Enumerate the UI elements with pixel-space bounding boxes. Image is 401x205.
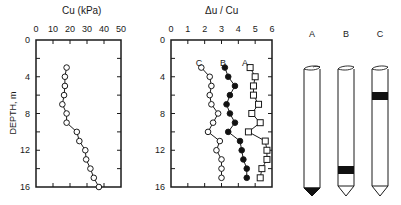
data-point	[259, 166, 265, 172]
data-point	[83, 157, 89, 163]
depth-axis-label: DEPTH, m	[8, 91, 18, 134]
pore-pressure-ratio-chart: Δu / Cu 0123456 0481216 C B A	[155, 5, 275, 192]
data-point	[62, 83, 68, 89]
figure: Cu (kPa) 01020304050 0481216 DEPTH, m Δu…	[0, 0, 401, 205]
data-point	[209, 102, 215, 108]
data-point	[88, 166, 94, 172]
data-point	[219, 157, 225, 163]
pile-b-open-tip	[338, 186, 354, 196]
series-b-label: B	[220, 58, 226, 68]
x-tick-label: 5	[253, 24, 258, 34]
data-point	[62, 74, 68, 80]
data-point	[257, 175, 263, 181]
x-tick-label: 20	[65, 24, 75, 34]
cu-depth-chart: Cu (kPa) 01020304050 0481216 DEPTH, m	[8, 5, 126, 192]
series-a-label: A	[242, 58, 248, 68]
data-point	[224, 102, 230, 108]
data-point	[232, 120, 238, 126]
data-point	[210, 120, 216, 126]
data-point	[264, 156, 270, 162]
pile-c-label: C	[377, 29, 384, 39]
chart1-frame	[36, 40, 121, 187]
data-point	[237, 138, 243, 144]
chart2-title: Δu / Cu	[205, 5, 238, 16]
data-point	[232, 83, 238, 89]
y-tick-label: 4	[25, 72, 30, 82]
pile-b-band	[338, 166, 354, 174]
data-point	[96, 184, 102, 190]
chart1-y-ticks: 0481216	[20, 35, 121, 192]
y-tick-label: 8	[25, 109, 30, 119]
y-tick-label: 12	[20, 145, 30, 155]
data-point	[250, 83, 256, 89]
pile-a-filled-tip	[304, 188, 320, 196]
data-point	[262, 138, 268, 144]
data-point	[64, 120, 70, 126]
data-point	[241, 157, 247, 163]
x-tick-label: 40	[99, 24, 109, 34]
data-point	[264, 147, 270, 153]
data-point	[244, 166, 250, 172]
data-point	[225, 129, 231, 135]
y-tick-label: 16	[155, 182, 165, 192]
data-point	[247, 65, 253, 71]
pile-c-open-tip	[372, 186, 388, 196]
series-c-label: C	[196, 58, 203, 68]
x-tick-label: 4	[236, 24, 241, 34]
pile-a	[304, 66, 320, 196]
x-tick-label: 2	[202, 24, 207, 34]
data-point	[244, 175, 250, 181]
data-point	[207, 92, 213, 98]
data-point	[219, 166, 225, 172]
pile-a-label: A	[309, 29, 315, 39]
data-point	[91, 175, 97, 181]
data-point	[227, 92, 233, 98]
data-point	[64, 65, 70, 71]
data-point	[227, 111, 233, 117]
data-point	[249, 111, 255, 117]
data-point	[250, 92, 256, 98]
x-tick-label: 0	[33, 24, 38, 34]
x-tick-label: 10	[48, 24, 58, 34]
data-point	[61, 92, 67, 98]
pile-c-band	[372, 92, 388, 100]
data-point	[215, 111, 221, 117]
data-point	[83, 147, 89, 153]
data-point	[239, 147, 245, 153]
data-point	[60, 102, 66, 108]
y-tick-label: 12	[155, 145, 165, 155]
data-point	[225, 74, 231, 80]
chart2-series	[199, 65, 270, 181]
x-tick-label: 6	[269, 24, 274, 34]
y-tick-label: 16	[20, 182, 30, 192]
x-tick-label: 0	[168, 24, 173, 34]
x-tick-label: 1	[185, 24, 190, 34]
x-tick-label: 50	[116, 24, 126, 34]
x-tick-label: 3	[219, 24, 224, 34]
y-tick-label: 0	[160, 35, 165, 45]
pile-diagrams: A B C	[304, 29, 388, 196]
data-point	[256, 101, 262, 107]
data-point	[214, 147, 220, 153]
pile-b-label: B	[343, 29, 349, 39]
data-point	[252, 74, 258, 80]
y-tick-label: 4	[160, 72, 165, 82]
data-point	[219, 175, 225, 181]
pile-b	[338, 66, 354, 196]
data-point	[205, 129, 211, 135]
data-point	[207, 74, 213, 80]
chart1-x-ticks: 01020304050	[33, 24, 126, 187]
data-point	[64, 111, 70, 117]
chart1-title: Cu (kPa)	[62, 5, 101, 16]
x-tick-label: 30	[82, 24, 92, 34]
data-point	[209, 83, 215, 89]
data-point	[245, 129, 251, 135]
y-tick-label: 0	[25, 35, 30, 45]
data-point	[74, 129, 80, 135]
chart1-series	[60, 65, 102, 190]
data-point	[257, 120, 263, 126]
data-point	[217, 138, 223, 144]
data-point	[77, 138, 83, 144]
pile-c	[372, 66, 388, 196]
y-tick-label: 8	[160, 109, 165, 119]
